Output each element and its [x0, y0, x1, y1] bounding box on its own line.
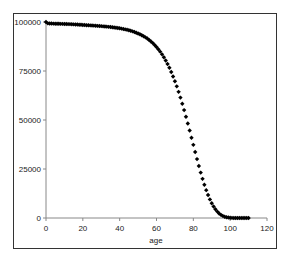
data-point-marker — [171, 74, 175, 78]
data-point-marker — [202, 183, 206, 187]
data-point-marker — [169, 70, 173, 74]
data-point-marker — [180, 102, 184, 106]
x-tick-label: 80 — [189, 224, 198, 233]
x-tick-label: 20 — [78, 224, 87, 233]
y-tick-label: 75000 — [19, 67, 42, 76]
x-axis-ticks: 020406080100120 — [44, 218, 274, 233]
x-tick-label: 0 — [44, 224, 49, 233]
data-point-marker — [184, 115, 188, 119]
data-point-marker — [182, 108, 186, 112]
data-point-marker — [167, 66, 171, 70]
scatter-chart: 0250005000075000100000 020406080100120 a… — [0, 0, 290, 262]
data-point-marker — [191, 143, 195, 147]
x-tick-label: 60 — [152, 224, 161, 233]
y-tick-label: 0 — [37, 214, 42, 223]
x-tick-label: 100 — [223, 224, 237, 233]
data-point-marker — [193, 150, 197, 154]
x-axis-title: age — [149, 236, 163, 245]
data-point-marker — [208, 197, 212, 201]
data-point-marker — [197, 164, 201, 168]
data-point-marker — [199, 170, 203, 174]
y-tick-label: 25000 — [19, 165, 42, 174]
data-point-marker — [175, 84, 179, 88]
axes — [46, 22, 267, 218]
data-point-marker — [186, 121, 190, 125]
y-tick-label: 50000 — [19, 116, 42, 125]
data-point-marker — [165, 62, 169, 66]
data-point-marker — [187, 128, 191, 132]
data-point-marker — [178, 95, 182, 99]
data-point-marker — [173, 79, 177, 83]
x-tick-label: 120 — [260, 224, 274, 233]
data-point-marker — [195, 157, 199, 161]
data-point-marker — [176, 90, 180, 94]
data-point-marker — [204, 188, 208, 192]
y-axis-ticks: 0250005000075000100000 — [14, 18, 46, 223]
data-point-marker — [189, 135, 193, 139]
data-point-marker — [206, 193, 210, 197]
data-point-marker — [200, 177, 204, 181]
y-tick-label: 100000 — [14, 18, 41, 27]
data-points — [44, 20, 251, 220]
x-tick-label: 40 — [115, 224, 124, 233]
